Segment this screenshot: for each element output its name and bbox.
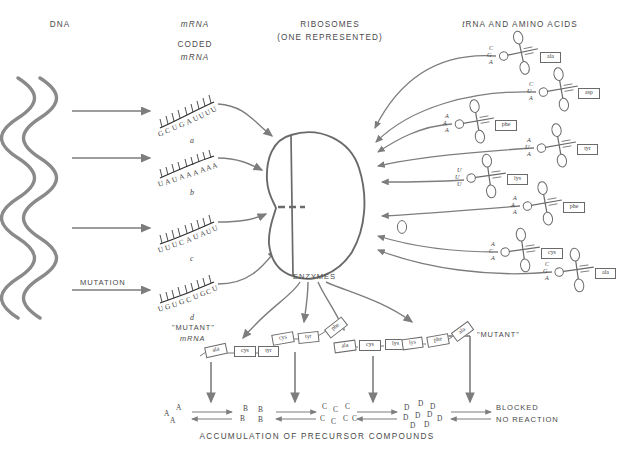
dna-double-helix xyxy=(2,78,57,318)
amino-acid-box-cys: cys xyxy=(541,248,563,259)
transcription-arrows xyxy=(72,111,150,290)
mrna-arrow-d xyxy=(218,250,276,284)
mrna-label-b: b xyxy=(190,188,194,197)
reaction-pair-cd xyxy=(357,412,397,419)
mutant-mrna-line2: mRNA xyxy=(180,334,205,343)
mrna-arrow-c xyxy=(218,214,266,222)
enzyme3-residue-1: cys xyxy=(359,340,381,351)
amino-acid-box-asp: asp xyxy=(578,88,600,99)
enzyme1-residue-1: cys xyxy=(234,346,256,357)
trna-bodies xyxy=(397,28,596,295)
amino-acid-box-ala-1: ala xyxy=(540,52,561,63)
ribosome xyxy=(267,132,365,278)
enzyme-arrow-4 xyxy=(326,282,412,322)
blocked-line1: BLOCKED xyxy=(496,403,539,412)
trna-body-phe-1 xyxy=(452,97,498,147)
ribosome-large-subunit xyxy=(291,132,364,278)
mrna-label-d: d xyxy=(190,313,194,322)
trna-body-lys xyxy=(464,152,509,201)
enzymes-label: ENZYMES xyxy=(293,272,336,281)
trna-body-cys xyxy=(498,226,543,275)
mrna-to-ribosome-arrows xyxy=(218,104,276,284)
blocked-line2: NO REACTION xyxy=(496,415,559,424)
free-trna-loop xyxy=(397,221,406,234)
trna-arrow-tyr xyxy=(378,148,534,166)
mutation-label: MUTATION xyxy=(80,278,126,287)
figure-canvas: DNA mRNA CODED mRNA RIBOSOMES (ONE REPRE… xyxy=(0,0,634,451)
trna-arrow-phe1 xyxy=(378,124,452,152)
reaction-pair-bc xyxy=(276,412,316,419)
amino-acid-box-phe-1: phe xyxy=(495,120,517,131)
trna-body-asp xyxy=(536,65,582,115)
amino-acid-box-phe-2: phe xyxy=(563,202,585,213)
trna-body-ala xyxy=(495,28,542,79)
enzyme1-residue-2: tyr xyxy=(258,346,279,357)
enzyme2-residue-1: tyr xyxy=(297,331,319,344)
trna-arrow-cys xyxy=(378,236,498,252)
ribosome-small-subunit xyxy=(267,135,293,276)
trna-arrow-lys xyxy=(382,180,464,182)
trna-arrow-asp xyxy=(376,92,536,142)
mrna-arrow-a xyxy=(218,104,272,136)
trna-body-phe-2 xyxy=(520,179,566,229)
reaction-pair-d-blocked xyxy=(451,412,491,419)
precursor-reaction-arrows xyxy=(192,412,491,419)
reaction-pair-ab xyxy=(192,412,232,419)
trna-to-ribosome-arrows xyxy=(375,56,552,274)
mrna-label-a: a xyxy=(190,136,194,145)
mrna-label-c: c xyxy=(190,254,194,263)
enzyme-arrow-2 xyxy=(304,282,308,322)
mutant-mrna-line1: "MUTANT" xyxy=(172,323,215,332)
trna-arrow-ala xyxy=(375,56,496,128)
amino-acid-box-tyr: tyr xyxy=(577,144,598,155)
mrna-arrow-b xyxy=(218,158,262,170)
amino-acid-box-ala-2: ala xyxy=(595,268,616,279)
bottom-caption: ACCUMULATION OF PRECURSOR COMPOUNDS xyxy=(0,432,634,441)
trna-arrow-phe2 xyxy=(382,206,520,216)
mutant-enzyme-label: "MUTANT" xyxy=(477,330,520,339)
amino-acid-box-lys: lys xyxy=(507,174,528,185)
enzyme-arrow-1 xyxy=(243,282,300,338)
trna-body-tyr xyxy=(534,121,580,171)
diagram-vectors xyxy=(0,0,634,451)
